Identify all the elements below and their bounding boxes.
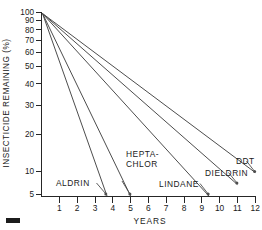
x-tick-label-11: 11	[233, 203, 242, 213]
x-tick-label-1: 1	[57, 203, 62, 213]
x-tick-label-3: 3	[93, 203, 98, 213]
x-tick-label-9: 9	[199, 203, 204, 213]
series-label-lindane: LINDANE	[159, 179, 199, 189]
x-tick-label-5: 5	[128, 203, 133, 213]
y-axis-ticks: 100 90 80 70 60 50 40 30 20 10 5	[20, 8, 41, 199]
series-label-aldrin: ALDRIN	[56, 178, 90, 188]
leader-dot-aldrin	[104, 192, 107, 195]
series-line-aldrin	[43, 14, 108, 197]
y-tick-label-80: 80	[25, 26, 35, 35]
y-tick-label-5: 5	[29, 190, 34, 199]
x-axis-title: YEARS	[134, 216, 167, 226]
y-tick-label-60: 60	[25, 48, 35, 57]
x-tick-label-7: 7	[164, 203, 169, 213]
series-label-heptachlor-line1: HEPTA-	[126, 149, 159, 159]
chart-plot-area: 100 90 80 70 60 50 40 30 20 10 5	[0, 0, 262, 230]
series-label-dieldrin: DIELDRIN	[205, 168, 248, 178]
insecticide-decay-chart: 100 90 80 70 60 50 40 30 20 10 5	[0, 0, 262, 230]
x-axis-ticks: 1 2 3 4 5 6 7 8 9 10 11 12	[57, 197, 260, 214]
y-tick-label-20: 20	[25, 130, 35, 139]
series-line-heptachlor	[43, 14, 131, 197]
leader-line-lindane	[200, 184, 208, 194]
x-tick-label-12: 12	[251, 203, 261, 213]
series-labels-group: ALDRIN HEPTA- CHLOR LINDANE DIELDRIN DDT	[56, 149, 255, 189]
series-label-ddt: DDT	[236, 156, 255, 166]
figure-corner-mark	[6, 218, 20, 223]
leader-dot-heptachlor	[128, 192, 131, 195]
x-tick-label-2: 2	[75, 203, 80, 213]
x-tick-label-8: 8	[182, 203, 187, 213]
y-tick-label-70: 70	[25, 36, 35, 45]
x-tick-label-6: 6	[146, 203, 151, 213]
y-tick-label-50: 50	[25, 62, 35, 71]
leader-dot-ddt	[253, 170, 256, 173]
x-tick-label-10: 10	[215, 203, 225, 213]
x-tick-label-4: 4	[110, 203, 115, 213]
y-tick-label-30: 30	[25, 101, 35, 110]
y-axis-title: INSECTICIDE REMAINING (%)	[2, 38, 11, 167]
leader-dot-dieldrin	[235, 181, 238, 184]
series-label-heptachlor-line2: CHLOR	[126, 159, 158, 169]
y-tick-label-10: 10	[25, 167, 35, 176]
leader-dot-lindane	[207, 192, 210, 195]
y-tick-label-40: 40	[25, 80, 35, 89]
leader-line-heptachlor	[122, 181, 130, 194]
y-tick-label-90: 90	[25, 16, 35, 25]
